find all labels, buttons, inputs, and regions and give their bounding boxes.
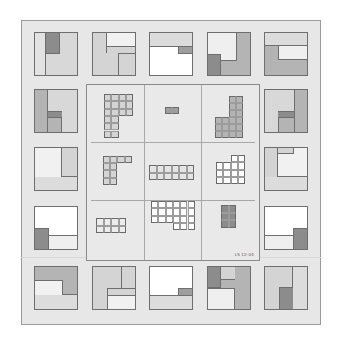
grid-square <box>229 103 236 110</box>
grid-shape <box>221 205 236 228</box>
puzzle-tile <box>264 147 308 191</box>
grid-square <box>216 170 223 177</box>
grid-square <box>126 101 133 108</box>
grid-square <box>111 218 119 226</box>
grid-square <box>223 162 230 169</box>
puzzle-tile <box>34 89 78 133</box>
grid-shape <box>215 96 243 138</box>
grid-square <box>229 117 236 124</box>
grid-shape <box>216 155 245 184</box>
grid-square <box>103 178 110 185</box>
grid-square <box>229 131 236 138</box>
grid-square <box>180 201 187 208</box>
grid-square <box>104 94 111 101</box>
grid-square <box>223 170 230 177</box>
grid-square <box>188 223 195 230</box>
grid-square <box>238 155 245 162</box>
grid-square <box>119 226 127 234</box>
row-divider <box>91 142 255 143</box>
grid-square <box>151 216 158 223</box>
grid-square <box>149 165 157 173</box>
grid-square <box>229 220 237 228</box>
grid-square <box>236 131 243 138</box>
grid-square <box>111 116 118 123</box>
grid-shape <box>103 156 132 185</box>
inner-panel: LS 12-04 <box>86 84 260 261</box>
grid-square <box>103 163 110 170</box>
grid-square <box>104 116 111 123</box>
grid-square <box>221 205 229 213</box>
tile-region <box>279 287 293 310</box>
tile-region <box>46 32 60 54</box>
grid-square <box>158 208 165 215</box>
grid-square <box>222 124 229 131</box>
grid-square <box>215 117 222 124</box>
puzzle-tile <box>34 32 78 76</box>
grid-square <box>111 109 118 116</box>
puzzle-tile <box>92 32 136 76</box>
grid-square <box>104 218 112 226</box>
grid-square <box>126 94 133 101</box>
grid-square <box>104 109 111 116</box>
tile-region <box>106 32 136 47</box>
tile-region <box>221 266 235 280</box>
tile-region <box>106 47 118 53</box>
grid-square <box>215 124 222 131</box>
grid-square <box>222 131 229 138</box>
grid-square <box>172 107 179 114</box>
tile-region <box>178 47 193 54</box>
grid-square <box>238 177 245 184</box>
grid-square <box>104 131 111 138</box>
grid-square <box>216 162 223 169</box>
grid-square <box>164 173 172 181</box>
grid-square <box>158 216 165 223</box>
puzzle-tile <box>207 32 251 76</box>
grid-square <box>111 94 118 101</box>
grid-square <box>166 201 173 208</box>
tile-region <box>278 46 308 60</box>
grid-square <box>119 109 126 116</box>
grid-shape <box>96 218 126 233</box>
puzzle-tile <box>149 266 193 310</box>
tile-region <box>118 53 136 76</box>
grid-square <box>111 226 119 234</box>
grid-square <box>187 165 195 173</box>
grid-square <box>111 131 118 138</box>
grid-square <box>236 103 243 110</box>
grid-square <box>110 156 117 163</box>
tile-region <box>34 228 49 250</box>
puzzle-tile <box>264 89 308 133</box>
grid-square <box>103 170 110 177</box>
grid-square <box>110 178 117 185</box>
grid-square <box>216 177 223 184</box>
tile-region <box>207 288 235 310</box>
puzzle-tile <box>34 206 78 250</box>
tile-region <box>278 111 294 118</box>
grid-square <box>188 208 195 215</box>
grid-square <box>188 216 195 223</box>
tile-region <box>34 89 48 133</box>
grid-square <box>164 165 172 173</box>
tile-region <box>278 147 294 154</box>
grid-square <box>236 117 243 124</box>
grid-square <box>231 155 238 162</box>
grid-square <box>180 208 187 215</box>
tile-region <box>278 118 294 133</box>
grid-square <box>126 109 133 116</box>
grid-square <box>119 218 127 226</box>
grid-square <box>117 156 124 163</box>
grid-square <box>231 162 238 169</box>
grid-square <box>188 201 195 208</box>
grid-square <box>149 173 157 181</box>
puzzle-tile <box>92 266 136 310</box>
puzzle-tile <box>34 147 78 191</box>
tile-region <box>207 266 221 288</box>
column-divider <box>201 85 202 260</box>
puzzle-tile <box>264 266 308 310</box>
grid-square <box>157 173 165 181</box>
grid-square <box>104 123 111 130</box>
grid-shape <box>104 94 133 138</box>
grid-square <box>215 131 222 138</box>
grid-square <box>96 218 104 226</box>
panel-label: LS 12-04 <box>235 252 254 257</box>
